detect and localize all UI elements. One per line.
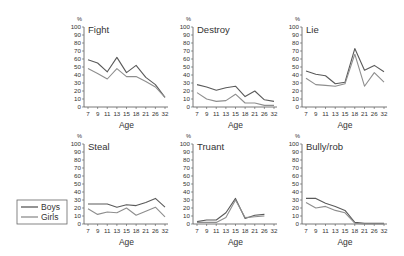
- x-tick-label: 11: [322, 110, 329, 117]
- x-tick-label: 11: [213, 110, 220, 117]
- series-line-girls: [197, 93, 274, 106]
- y-tick-label: 10: [74, 95, 81, 102]
- y-tick-label: 10: [292, 212, 299, 219]
- panel-title: Steal: [88, 141, 110, 152]
- y-tick-label: 30: [292, 196, 299, 203]
- y-tick-label: 70: [292, 164, 299, 171]
- series-line-girls: [197, 200, 264, 222]
- y-tick-label: 60: [183, 172, 190, 179]
- x-tick-label: 11: [104, 110, 111, 117]
- y-tick-label: 20: [183, 204, 190, 211]
- y-tick-label: 30: [183, 196, 190, 203]
- x-axis-label: Age: [228, 237, 243, 247]
- x-tick-label: 13: [332, 227, 339, 234]
- x-tick-label: 13: [222, 110, 229, 117]
- y-tick-label: 100: [180, 140, 191, 147]
- x-tick-label: 26: [261, 227, 268, 234]
- series-line-boys: [306, 198, 384, 223]
- x-tick-label: 21: [251, 227, 258, 234]
- chart-panel-lie: 0102030405060708090100%7911131518212632A…: [289, 16, 388, 130]
- y-tick-label: 70: [292, 47, 299, 54]
- x-tick-label: 26: [152, 227, 159, 234]
- x-tick-label: 32: [271, 227, 278, 234]
- y-axis-unit-label: %: [186, 133, 191, 139]
- y-tick-label: 70: [183, 164, 190, 171]
- y-tick-label: 0: [187, 103, 191, 110]
- y-tick-label: 90: [183, 31, 190, 38]
- x-axis-label: Age: [228, 120, 243, 130]
- x-tick-label: 7: [86, 227, 90, 234]
- y-tick-label: 100: [71, 140, 82, 147]
- x-tick-label: 9: [314, 227, 318, 234]
- series-line-boys: [197, 85, 274, 102]
- y-tick-label: 90: [74, 148, 81, 155]
- x-tick-label: 7: [304, 110, 308, 117]
- y-tick-label: 60: [74, 172, 81, 179]
- x-tick-label: 7: [195, 227, 199, 234]
- y-tick-label: 100: [71, 23, 82, 30]
- y-tick-label: 70: [74, 47, 81, 54]
- x-tick-label: 21: [361, 110, 368, 117]
- x-tick-label: 15: [342, 110, 349, 117]
- x-axis-label: Age: [337, 120, 352, 130]
- y-tick-label: 0: [296, 220, 300, 227]
- y-tick-label: 60: [74, 55, 81, 62]
- x-tick-label: 7: [304, 227, 308, 234]
- x-tick-label: 18: [133, 227, 140, 234]
- y-tick-label: 70: [183, 47, 190, 54]
- y-tick-label: 30: [74, 79, 81, 86]
- y-tick-label: 0: [187, 220, 191, 227]
- x-tick-label: 26: [261, 110, 268, 117]
- y-axis-unit-label: %: [77, 133, 82, 139]
- x-tick-label: 21: [251, 110, 258, 117]
- x-tick-label: 21: [142, 227, 149, 234]
- y-tick-label: 80: [183, 156, 190, 163]
- y-tick-label: 90: [74, 31, 81, 38]
- x-tick-label: 15: [342, 227, 349, 234]
- y-tick-label: 60: [292, 172, 299, 179]
- y-tick-label: 40: [183, 188, 190, 195]
- y-tick-label: 10: [183, 212, 190, 219]
- x-tick-label: 13: [113, 110, 120, 117]
- x-tick-label: 9: [96, 227, 100, 234]
- y-tick-label: 10: [292, 95, 299, 102]
- y-tick-label: 20: [292, 204, 299, 211]
- x-tick-label: 18: [242, 227, 249, 234]
- y-tick-label: 40: [292, 188, 299, 195]
- y-tick-label: 80: [292, 39, 299, 46]
- y-tick-label: 50: [74, 63, 81, 70]
- x-tick-label: 9: [205, 227, 209, 234]
- chart-panel-steal: 0102030405060708090100%7911131518212632A…: [71, 133, 169, 247]
- x-tick-label: 32: [162, 227, 169, 234]
- x-tick-label: 15: [123, 110, 130, 117]
- y-tick-label: 0: [296, 103, 300, 110]
- y-tick-label: 90: [292, 148, 299, 155]
- chart-panel-bully-rob: 0102030405060708090100%7911131518212632A…: [289, 133, 388, 247]
- chart-panel-destroy: 0102030405060708090100%7911131518212632A…: [180, 16, 278, 130]
- x-axis-label: Age: [119, 120, 134, 130]
- y-tick-label: 30: [183, 79, 190, 86]
- x-tick-label: 21: [361, 227, 368, 234]
- y-tick-label: 70: [74, 164, 81, 171]
- y-axis-unit-label: %: [295, 133, 300, 139]
- y-tick-label: 0: [78, 220, 82, 227]
- panel-title: Destroy: [197, 24, 230, 35]
- panel-title: Bully/rob: [306, 141, 343, 152]
- y-tick-label: 50: [74, 180, 81, 187]
- y-tick-label: 50: [183, 180, 190, 187]
- panel-title: Truant: [197, 141, 224, 152]
- x-tick-label: 26: [152, 110, 159, 117]
- x-tick-label: 7: [195, 110, 199, 117]
- panels-group: 0102030405060708090100%7911131518212632A…: [71, 16, 388, 247]
- y-tick-label: 20: [183, 87, 190, 94]
- y-tick-label: 90: [292, 31, 299, 38]
- y-tick-label: 40: [292, 71, 299, 78]
- y-tick-label: 10: [183, 95, 190, 102]
- x-tick-label: 18: [242, 110, 249, 117]
- y-axis-unit-label: %: [295, 16, 300, 22]
- x-tick-label: 9: [314, 110, 318, 117]
- series-line-boys: [197, 198, 264, 221]
- y-tick-label: 40: [74, 188, 81, 195]
- x-tick-label: 26: [371, 110, 378, 117]
- legend-girls-label: Girls: [41, 212, 58, 222]
